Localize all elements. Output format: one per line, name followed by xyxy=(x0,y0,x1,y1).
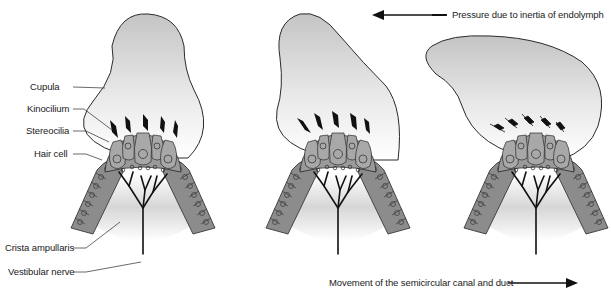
movement-arrow xyxy=(508,278,578,288)
label-vestibular-nerve: Vestibular nerve xyxy=(8,267,75,277)
label-crista-ampullaris: Crista ampullaris xyxy=(5,243,74,253)
label-hair-cell: Hair cell xyxy=(34,149,67,159)
diagram-canvas xyxy=(0,0,611,295)
pressure-arrow-main xyxy=(372,10,447,20)
panel-deflection-max xyxy=(426,36,608,254)
annotation-movement: Movement of the semicircular canal and d… xyxy=(329,278,513,288)
label-stereocilia: Stereocilia xyxy=(26,126,69,136)
label-kinocilium: Kinocilium xyxy=(27,104,69,114)
vestibular-crista-diagram: Cupula Kinocilium Stereocilia Hair cell … xyxy=(0,0,611,295)
panel-deflection-mid xyxy=(266,13,410,254)
annotation-pressure: Pressure due to inertia of endolymph xyxy=(452,10,604,20)
label-cupula: Cupula xyxy=(30,82,60,92)
